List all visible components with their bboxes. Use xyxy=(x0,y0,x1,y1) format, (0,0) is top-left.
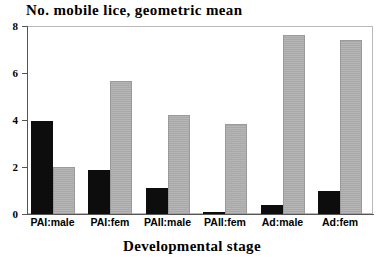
y-axis-label-2: 2 xyxy=(0,161,18,173)
bar-ad-male-black xyxy=(261,205,283,214)
bar-pai-fem-black xyxy=(88,170,110,214)
x-axis-title: Developmental stage xyxy=(0,238,384,255)
bar-ad-fem-gray xyxy=(340,40,362,214)
bars-layer xyxy=(28,27,373,214)
x-axis-category-label: PAII:fem xyxy=(204,216,246,228)
bar-ad-fem-black xyxy=(318,191,340,214)
x-axis-category-label: PAI:male xyxy=(30,216,74,228)
y-axis-label-4: 4 xyxy=(0,114,18,126)
y-axis-label-0: 0 xyxy=(0,208,18,220)
x-axis-category-label: Ad:male xyxy=(262,216,303,228)
chart-figure: No. mobile lice, geometric mean 8 6 4 2 … xyxy=(0,0,384,270)
bar-pai-male-gray xyxy=(53,167,75,214)
x-axis-category-label: PAII:male xyxy=(144,216,191,228)
x-axis-category-label: Ad:fem xyxy=(322,216,358,228)
x-axis-line xyxy=(27,214,374,215)
bar-paii-fem-gray xyxy=(225,124,247,214)
bar-paii-male-black xyxy=(146,188,168,214)
x-axis-category-label: PAI:fem xyxy=(91,216,130,228)
bar-ad-male-gray xyxy=(283,35,305,214)
y-axis-label-6: 6 xyxy=(0,67,18,79)
bar-paii-fem-black xyxy=(203,212,225,214)
y-axis-tick xyxy=(22,214,28,215)
chart-title: No. mobile lice, geometric mean xyxy=(26,2,243,19)
bar-pai-fem-gray xyxy=(110,81,132,214)
bar-paii-male-gray xyxy=(168,115,190,214)
bar-pai-male-black xyxy=(31,121,53,215)
y-axis-label-8: 8 xyxy=(0,20,18,32)
